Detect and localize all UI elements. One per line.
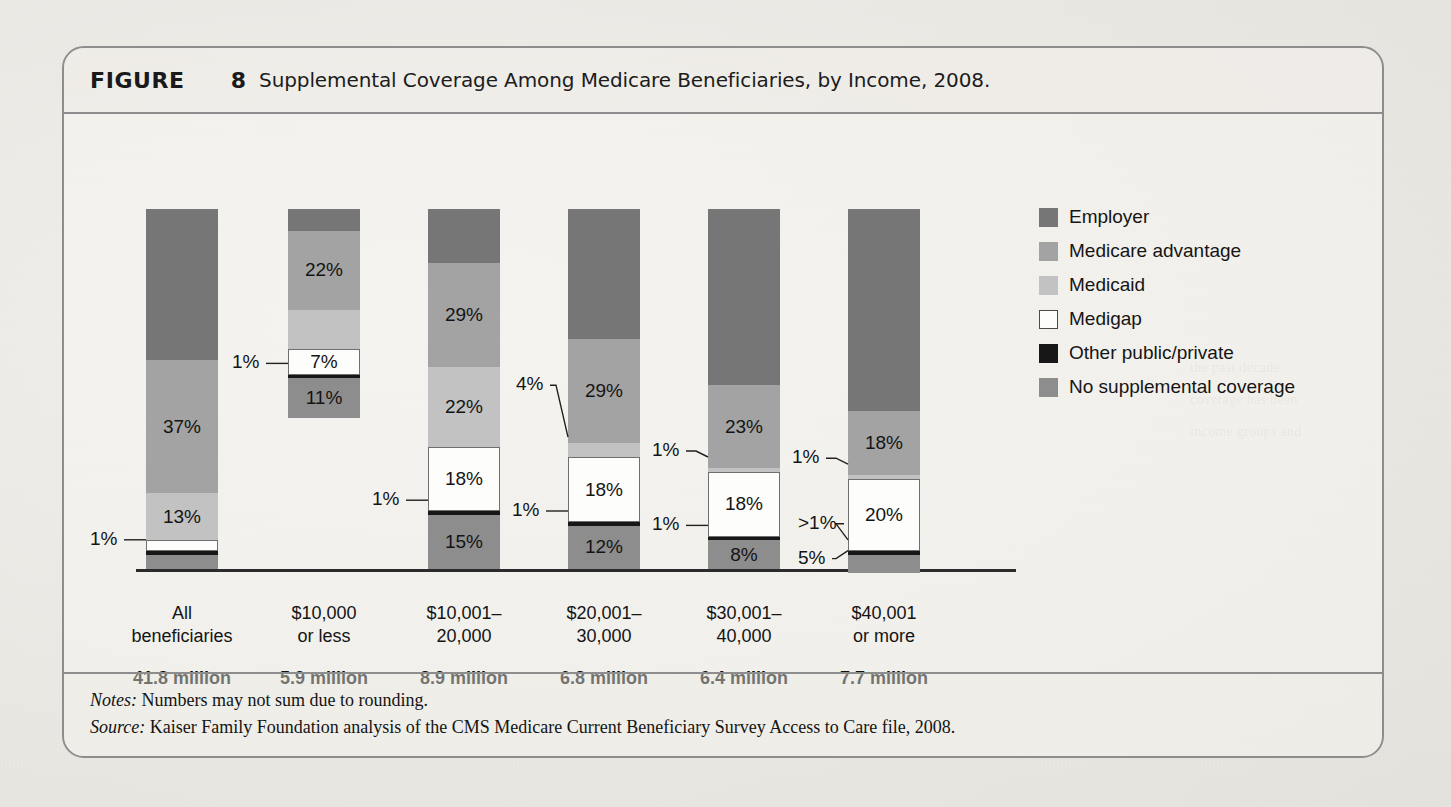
legend-item: Medicare advantage [1039,234,1295,268]
bar-segment-callout: 1% [512,499,539,521]
bar-segment [288,209,360,231]
bar-segment [146,540,218,551]
figure-label: FIGURE [90,68,185,93]
bar-segment [568,209,640,339]
bar-stack: 22%7%11% [288,209,360,569]
bar-segment [568,443,640,457]
legend-item-label: Medigap [1069,308,1142,330]
figure-number: 8 [231,68,246,93]
bar-segment-label: 23% [725,416,763,438]
bar-segment: 22% [288,231,360,310]
bar-segment: 8% [708,540,780,569]
x-axis-category-line: $10,001– [389,602,539,625]
x-axis-category-label: $30,001–40,000 [669,602,819,648]
bar-segment-label: 37% [163,416,201,438]
figure-title: Supplemental Coverage Among Medicare Ben… [259,68,990,92]
legend-swatch-icon [1039,276,1058,295]
bar-segment-callout: 1% [792,446,819,468]
bar-segment-label: 13% [163,506,201,528]
figure-header: FIGURE 8 Supplemental Coverage Among Med… [64,48,1382,114]
bar-stack: 29%22%18%15% [428,209,500,569]
x-axis-category-line: $30,001– [669,602,819,625]
x-axis-category-line: beneficiaries [107,625,257,648]
legend-item-label: Other public/private [1069,342,1234,364]
x-axis-category-line: 30,000 [529,625,679,648]
bar-segment-callout: 1% [232,351,259,373]
bar-segment-callout: 1% [372,488,399,510]
bar-segment-label: 22% [445,396,483,418]
source-label: Source: [90,717,145,737]
legend-item-label: Medicare advantage [1069,240,1241,262]
x-axis-category-line: $10,000 [249,602,399,625]
legend-swatch-icon [1039,242,1058,261]
figure-frame: FIGURE 8 Supplemental Coverage Among Med… [62,46,1384,758]
bar-segment: 7% [288,349,360,374]
bar-segment-callout: 1% [90,528,117,550]
x-axis-category-line: 40,000 [669,625,819,648]
x-axis-category-line: $20,001– [529,602,679,625]
notes-label: Notes: [90,690,137,710]
x-axis-category-label: Allbeneficiaries [107,602,257,648]
legend-item: Medigap [1039,302,1295,336]
bar-segment-callout: 1% [652,513,679,535]
source-line: Source: Kaiser Family Foundation analysi… [90,714,1382,741]
bar-segment [146,555,218,569]
notes-line: Notes: Numbers may not sum due to roundi… [90,687,1382,714]
bar-segment: 18% [428,447,500,512]
x-axis-category-line: $40,001 [809,602,959,625]
bar-segment-label: 18% [725,493,763,515]
bar-segment [848,209,920,411]
bar-segment: 29% [568,339,640,443]
bar-segment-callout: >1% [798,512,837,534]
bar-segment-label: 15% [445,531,483,553]
legend-item-label: Medicaid [1069,274,1145,296]
bar-stack: 29%18%12% [568,209,640,569]
x-axis-category-line: or more [809,625,959,648]
legend-item: Employer [1039,200,1295,234]
bar-segment-label: 29% [445,304,483,326]
bar-segment: 18% [708,472,780,537]
bar-segment: 15% [428,515,500,569]
legend: EmployerMedicare advantageMedicaidMediga… [1039,200,1295,404]
bar-segment: 37% [146,360,218,493]
legend-swatch-icon [1039,310,1058,329]
bar-segment [708,209,780,385]
bar-segment [146,209,218,360]
legend-item-label: Employer [1069,206,1149,228]
x-axis-category-label: $10,000or less [249,602,399,648]
bar-segment: 29% [428,263,500,367]
x-axis-category-line: All [107,602,257,625]
bar-segment: 11% [288,378,360,418]
bar-segment: 13% [146,493,218,540]
bar-segment-callout: 1% [652,439,679,461]
bar-segment-label: 7% [310,351,337,373]
bar-segment-label: 22% [305,259,343,281]
plot-area: 37%13%22%7%11%29%22%18%15%29%18%12%23%18… [64,114,1382,672]
bar-segment: 18% [848,411,920,476]
source-text: Kaiser Family Foundation analysis of the… [145,717,955,737]
legend-swatch-icon [1039,378,1058,397]
notes-text: Numbers may not sum due to rounding. [137,690,428,710]
bar-segment-label: 11% [306,387,343,409]
legend-item: Other public/private [1039,336,1295,370]
x-axis-category-label: $10,001–20,000 [389,602,539,648]
bar-segment: 18% [568,457,640,522]
bar-group: 37%13%22%7%11%29%22%18%15%29%18%12%23%18… [136,196,1016,569]
bar-segment-label: 8% [730,544,757,566]
bar-segment-label: 18% [865,432,903,454]
bar-stack: 37%13% [146,209,218,569]
bar-segment-label: 29% [585,380,623,402]
bar-segment-callout: 4% [516,373,543,395]
legend-swatch-icon [1039,344,1058,363]
x-axis-category-label: $40,001or more [809,602,959,648]
bar-segment-label: 18% [445,468,483,490]
x-axis-category-line: 20,000 [389,625,539,648]
bar-stack: 23%18%8% [708,209,780,569]
x-axis-category-line: or less [249,625,399,648]
x-axis-category-label: $20,001–30,000 [529,602,679,648]
bar-segment-callout: 5% [798,547,825,569]
legend-item-label: No supplemental coverage [1069,376,1295,398]
bar-segment-label: 12% [585,536,623,558]
bar-segment-label: 20% [865,504,903,526]
bar-segment [428,209,500,263]
